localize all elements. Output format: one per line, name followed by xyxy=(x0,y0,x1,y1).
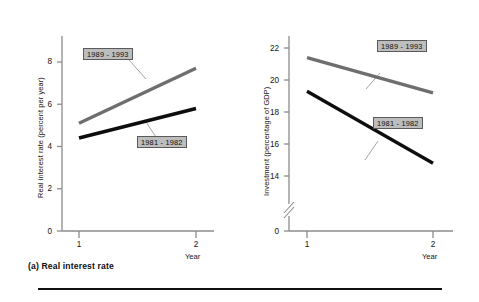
x-axis-title-a: Year xyxy=(185,252,200,261)
panel-investment: Investment (percentage of GDP) 0 14 16 1… xyxy=(226,0,479,302)
x-tick-label-2-a: 2 xyxy=(187,240,205,249)
y-tick-label-18-b: 18 xyxy=(255,108,279,117)
series-line-1989-1993-a xyxy=(79,68,196,123)
figure-divider-rule xyxy=(38,288,442,290)
callout-1989-1993-b: 1989 - 1993 xyxy=(377,40,427,52)
x-tick-label-2-b: 2 xyxy=(424,240,442,249)
y-axis-title-a: Real interest rate (percent per year) xyxy=(36,77,45,198)
y-tick-label-4-a: 4 xyxy=(34,142,52,151)
figure-container: Real interest rate (percent per year) 0 … xyxy=(0,0,479,302)
x-tick-label-1-b: 1 xyxy=(298,240,316,249)
leader-line-low-b xyxy=(365,141,378,160)
x-axis-title-b: Year xyxy=(422,252,437,261)
callout-1981-1982-a: 1981 - 1982 xyxy=(137,136,187,148)
panel-a-caption: (a) Real interest rate xyxy=(28,261,114,271)
y-tick-label-2-a: 2 xyxy=(34,184,52,193)
y-tick-label-14-b: 14 xyxy=(255,172,279,181)
y-tick-label-22-b: 22 xyxy=(255,44,279,53)
series-line-1981-1982-a xyxy=(79,109,196,139)
series-line-1989-1993-b xyxy=(307,58,433,93)
y-tick-label-20-b: 20 xyxy=(255,76,279,85)
y-tick-label-0-a: 0 xyxy=(34,227,52,236)
leader-line-high-a xyxy=(129,60,146,79)
panel-real-interest-rate: Real interest rate (percent per year) 0 … xyxy=(0,0,240,302)
callout-1989-1993-a: 1989 - 1993 xyxy=(83,48,133,60)
x-tick-label-1-a: 1 xyxy=(70,240,88,249)
y-tick-label-8-a: 8 xyxy=(34,57,52,66)
callout-1981-1982-b: 1981 - 1982 xyxy=(373,117,423,129)
y-tick-label-0-b: 0 xyxy=(261,227,279,236)
y-tick-label-6-a: 6 xyxy=(34,100,52,109)
y-tick-label-16-b: 16 xyxy=(255,140,279,149)
